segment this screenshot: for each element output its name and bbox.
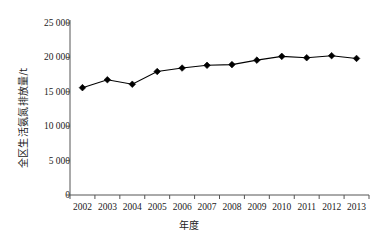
axis-lines	[70, 20, 369, 195]
data-point-marker	[154, 68, 161, 75]
data-point-marker	[129, 81, 136, 88]
plot-area	[0, 0, 379, 242]
data-point-marker	[179, 65, 186, 72]
data-point-marker	[229, 61, 236, 68]
data-point-marker	[303, 54, 310, 61]
data-point-marker	[353, 55, 360, 62]
line-chart: 全区生活氨氮排放量/t 05 00010 00015 00020 00025 0…	[0, 0, 379, 242]
data-line	[82, 56, 356, 88]
data-markers	[79, 52, 360, 91]
data-point-marker	[204, 62, 211, 69]
data-point-marker	[104, 76, 111, 83]
data-point-marker	[328, 52, 335, 59]
data-point-marker	[278, 53, 285, 60]
series-line	[82, 56, 356, 88]
data-point-marker	[254, 57, 261, 64]
data-point-marker	[79, 84, 86, 91]
axis-ticks	[66, 23, 369, 199]
